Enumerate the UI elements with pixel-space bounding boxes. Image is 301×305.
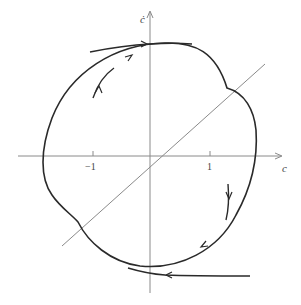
- tick-label-minus-one: −1: [85, 161, 96, 172]
- y-axis-label: ċ: [140, 13, 145, 25]
- arrow-icon-cycle-top: [125, 55, 132, 61]
- tick-label-one: 1: [207, 161, 212, 172]
- arrow-icon-cycle-bottom: [201, 241, 208, 247]
- inner-trajectory-right: [226, 184, 229, 220]
- inner-trajectory-top-left: [93, 68, 114, 98]
- outer-trajectory-top: [90, 43, 192, 52]
- y-axis: [147, 11, 153, 293]
- x-axis-label: c: [282, 162, 287, 174]
- outer-trajectory-bottom: [128, 268, 250, 276]
- phase-portrait-figure: c ċ −1 1: [0, 0, 301, 305]
